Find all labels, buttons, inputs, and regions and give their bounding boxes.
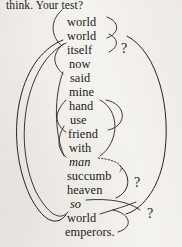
list-item: mine bbox=[69, 86, 94, 99]
list-item: succumb bbox=[67, 170, 111, 183]
list-item: now bbox=[69, 58, 91, 71]
list-item: friend bbox=[68, 128, 98, 141]
list-item: world bbox=[67, 30, 96, 43]
list-item: world bbox=[67, 212, 96, 225]
list-item: said bbox=[70, 72, 90, 85]
scanned-page: think. Your test? world world itself now bbox=[0, 0, 182, 247]
question-mark-annotation: ? bbox=[121, 42, 127, 56]
list-item: with bbox=[69, 142, 91, 155]
question-mark-annotation: ? bbox=[134, 176, 140, 190]
list-item: man bbox=[69, 156, 91, 169]
list-item: itself bbox=[67, 44, 92, 57]
list-item: heaven bbox=[67, 184, 102, 197]
list-item: world bbox=[67, 16, 96, 29]
list-item: hand bbox=[69, 100, 93, 113]
word-column: world world itself now said mine hand us… bbox=[0, 0, 182, 247]
question-mark-annotation: ? bbox=[147, 207, 153, 221]
list-item: use bbox=[70, 114, 87, 127]
list-item: so bbox=[70, 198, 81, 211]
list-item: emperors. bbox=[65, 226, 115, 239]
